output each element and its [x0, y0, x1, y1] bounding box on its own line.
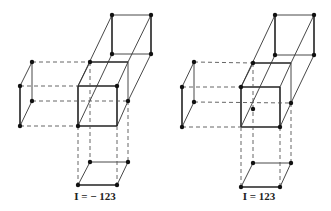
vertex-dot	[273, 13, 277, 17]
vertex-dot	[312, 53, 316, 57]
left-square-edge	[182, 62, 194, 87]
vertex-dot	[289, 101, 293, 105]
left-square-edge	[182, 102, 194, 127]
vertex-dot	[76, 183, 80, 187]
projection-line	[78, 54, 112, 126]
vertex-dot	[126, 99, 130, 103]
vertex-dot	[126, 160, 130, 164]
vertex-dot	[239, 85, 243, 89]
dashed-projection	[194, 102, 291, 103]
bottom-square-edge	[117, 162, 128, 185]
figure-inversion-plus	[180, 13, 316, 189]
bottom-square-edge	[280, 163, 291, 187]
vertex-dot	[251, 107, 255, 111]
vertex-dot	[115, 84, 119, 88]
dashed-projection	[194, 62, 253, 63]
projection-line	[291, 55, 314, 103]
projection-line	[128, 54, 151, 101]
vertex-dot	[149, 52, 153, 56]
diagram-canvas: I = − 123 I = 123	[0, 0, 331, 211]
vertex-dot	[180, 125, 184, 129]
cube-depth-edge	[117, 101, 128, 126]
cube-depth-edge	[117, 62, 128, 86]
vertex-dot	[18, 84, 22, 88]
vertex-dot	[76, 124, 80, 128]
vertex-dot	[289, 161, 293, 165]
vertex-dot	[251, 61, 255, 65]
vertex-dot	[312, 13, 316, 17]
vertex-dot	[30, 60, 34, 64]
left-square-edge	[20, 62, 32, 86]
projection-line	[78, 15, 112, 86]
bottom-square-edge	[78, 162, 90, 185]
projection-line	[128, 15, 151, 62]
label-left: I = − 123	[74, 190, 116, 202]
vertex-dot	[110, 13, 114, 17]
vertex-dot	[110, 52, 114, 56]
vertex-dot	[180, 85, 184, 89]
figure-inversion-minus	[18, 13, 153, 187]
vertex-dot	[30, 99, 34, 103]
left-square-edge	[20, 101, 32, 126]
vertex-dot	[251, 161, 255, 165]
cube-depth-edge	[280, 103, 291, 127]
cube-depth-edge	[280, 63, 291, 87]
vertex-dot	[192, 60, 196, 64]
vertex-dot	[88, 160, 92, 164]
vertex-dot	[273, 53, 277, 57]
vertex-dot	[88, 60, 92, 64]
vertex-dot	[192, 100, 196, 104]
projection-line	[291, 15, 314, 63]
bottom-square-edge	[241, 163, 253, 187]
vertex-dot	[278, 185, 282, 189]
vertex-dot	[239, 185, 243, 189]
projection-line	[241, 55, 275, 127]
label-right: I = 123	[243, 190, 276, 202]
vertex-dot	[18, 124, 22, 128]
projection-line	[241, 15, 275, 87]
vertex-dot	[149, 13, 153, 17]
vertex-dot	[115, 183, 119, 187]
vertex-dot	[278, 125, 282, 129]
